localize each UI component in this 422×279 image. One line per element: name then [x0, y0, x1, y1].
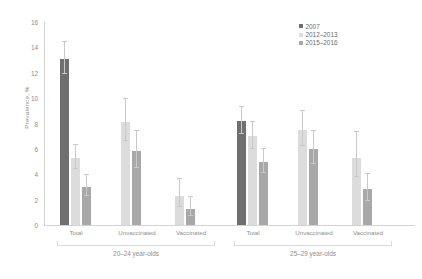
bar-p1-unvaccinated-2012-2013: [121, 122, 130, 225]
category-label-p1-vaccinated: Vaccinated: [176, 229, 206, 236]
bar-p2-unvaccinated-2015-2016: [309, 149, 318, 225]
bar-group-p1-unvaccinated: [121, 22, 153, 225]
error-bar: [136, 130, 137, 168]
y-tick-label: 10: [24, 95, 38, 102]
error-bar: [179, 178, 180, 207]
legend-item-2015-2016: 2015–2016: [299, 39, 338, 47]
panel-label-25-29: 25–29 year-olds: [290, 250, 336, 257]
panel-bracket-2: [234, 241, 392, 246]
bar-p1-vaccinated-2012-2013: [175, 196, 184, 225]
category-label-p1-unvaccinated: Unvaccinated: [118, 229, 156, 236]
error-bar: [190, 196, 191, 216]
category-label-p2-unvaccinated: Unvaccinated: [295, 229, 333, 236]
legend-swatch-2015-2016-icon: [299, 41, 303, 45]
y-tick-label: 2: [24, 196, 38, 203]
panel-label-20-24: 20–24 year-olds: [113, 250, 159, 257]
bar-chart: Prevalence, % 16 14 12 10 8 6 4 2 0: [0, 0, 422, 279]
legend-swatch-2012-2013-icon: [299, 33, 303, 37]
bar-group-p2-vaccinated: [352, 22, 384, 225]
bar-p1-unvaccinated-2015-2016: [132, 151, 141, 225]
y-tick-label: 4: [24, 171, 38, 178]
y-tick-label: 12: [24, 69, 38, 76]
error-bar: [356, 131, 357, 177]
error-bar: [367, 173, 368, 201]
legend-label-2015-2016: 2015–2016: [306, 39, 338, 46]
bar-p1-total-2012-2013: [71, 158, 80, 225]
legend-swatch-2007-icon: [299, 24, 303, 28]
bar-p2-unvaccinated-2012-2013: [298, 130, 307, 225]
category-label-p1-total: Total: [69, 229, 82, 236]
error-bar: [75, 144, 76, 169]
y-tick-label: 6: [24, 145, 38, 152]
error-bar: [252, 121, 253, 149]
category-label-p2-vaccinated: Vaccinated: [353, 229, 383, 236]
bar-group-p2-total: [237, 22, 269, 225]
bar-p2-vaccinated-2015-2016: [363, 189, 372, 225]
error-bar: [263, 148, 264, 173]
bar-group-p1-total: [60, 22, 92, 225]
error-bar: [86, 174, 87, 196]
bar-p2-total-2007: [237, 121, 246, 225]
y-tick-label: 8: [24, 120, 38, 127]
category-label-p2-total: Total: [246, 229, 259, 236]
bar-p2-vaccinated-2012-2013: [352, 158, 361, 225]
bar-p1-vaccinated-2015-2016: [186, 209, 195, 226]
legend-item-2012-2013: 2012–2013: [299, 30, 338, 38]
legend-label-2007: 2007: [306, 23, 320, 30]
bar-group-p1-vaccinated: [175, 22, 207, 225]
plot-area: [44, 22, 414, 225]
bar-group-p2-unvaccinated: [298, 22, 330, 225]
bar-p1-total-2007: [60, 59, 69, 225]
error-bar: [302, 110, 303, 147]
y-tick-label: 16: [24, 19, 38, 26]
bar-p1-total-2015-2016: [82, 187, 91, 225]
x-axis-line: [44, 225, 415, 226]
y-tick-label: 0: [24, 222, 38, 229]
legend-label-2012-2013: 2012–2013: [306, 31, 338, 38]
error-bar: [313, 130, 314, 164]
error-bar: [125, 98, 126, 141]
bar-p2-total-2012-2013: [248, 136, 257, 225]
error-bar: [241, 106, 242, 134]
y-tick-label: 14: [24, 44, 38, 51]
legend: 2007 2012–2013 2015–2016: [299, 22, 338, 47]
bar-p2-total-2015-2016: [259, 162, 268, 226]
legend-item-2007: 2007: [299, 22, 338, 30]
error-bar: [64, 41, 65, 74]
panel-bracket-1: [57, 241, 215, 246]
